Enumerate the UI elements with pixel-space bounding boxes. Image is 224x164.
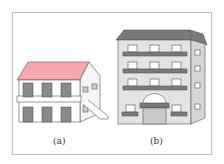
panel-label-a: (a) — [53, 136, 65, 146]
apartment-b — [116, 30, 207, 124]
panel-label-b: (b) — [150, 136, 163, 146]
house-a — [17, 62, 108, 122]
house-a-roof — [17, 62, 89, 80]
buildings-illustration — [0, 0, 224, 164]
